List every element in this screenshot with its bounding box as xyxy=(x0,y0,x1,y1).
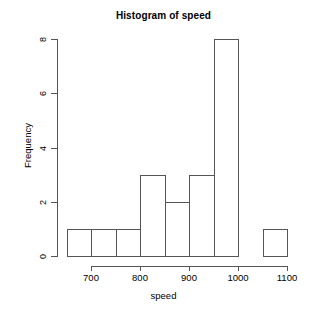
x-axis-tick xyxy=(91,266,92,271)
x-axis-tick xyxy=(189,266,190,271)
y-axis-tick-label-text: 0 xyxy=(38,251,49,262)
x-axis-tick-label: 900 xyxy=(169,272,209,283)
histogram-figure: Histogram of speed 02468 Frequency 70080… xyxy=(0,0,327,317)
x-axis-tick xyxy=(287,266,288,271)
plot-area: 02468 Frequency 70080090010001100 speed xyxy=(0,0,327,317)
y-axis-tick xyxy=(51,202,57,203)
histogram-bar xyxy=(116,229,142,257)
x-axis-tick-label: 700 xyxy=(71,272,111,283)
y-axis-tick xyxy=(51,256,57,257)
x-axis-title: speed xyxy=(0,290,327,301)
y-axis-tick xyxy=(51,148,57,149)
x-axis-tick xyxy=(238,266,239,271)
histogram-bar xyxy=(140,175,166,257)
histogram-bar xyxy=(189,175,215,257)
y-axis-tick-label: 6 xyxy=(38,88,49,99)
y-axis-tick-label: 4 xyxy=(38,143,49,154)
y-axis-tick-label: 2 xyxy=(38,197,49,208)
y-axis-tick-label: 0 xyxy=(38,251,49,262)
y-axis-tick xyxy=(51,39,57,40)
y-axis-tick-label-text: 8 xyxy=(38,34,49,45)
histogram-bar xyxy=(263,229,289,257)
y-axis-tick-label-text: 4 xyxy=(38,143,49,154)
y-axis-tick-label-text: 6 xyxy=(38,88,49,99)
histogram-bar xyxy=(214,39,240,257)
x-axis-tick-label: 800 xyxy=(120,272,160,283)
y-axis-tick xyxy=(51,93,57,94)
histogram-bar xyxy=(165,202,191,257)
x-axis-tick-label: 1000 xyxy=(218,272,258,283)
y-axis-tick-label: 8 xyxy=(38,34,49,45)
y-axis-title: Frequency xyxy=(22,101,33,191)
x-axis-tick-label: 1100 xyxy=(267,272,307,283)
x-axis-tick xyxy=(140,266,141,271)
y-axis-line xyxy=(57,39,58,257)
y-axis-tick-label-text: 2 xyxy=(38,197,49,208)
histogram-bar xyxy=(91,229,117,257)
histogram-bar xyxy=(67,229,93,257)
